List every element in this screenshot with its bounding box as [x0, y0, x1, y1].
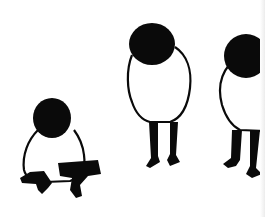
illustration [0, 0, 265, 217]
standing-figure-right [220, 34, 265, 178]
crouching-figure [20, 98, 101, 198]
page-edge-shadow [260, 0, 265, 217]
standing-figure-center [128, 23, 191, 168]
